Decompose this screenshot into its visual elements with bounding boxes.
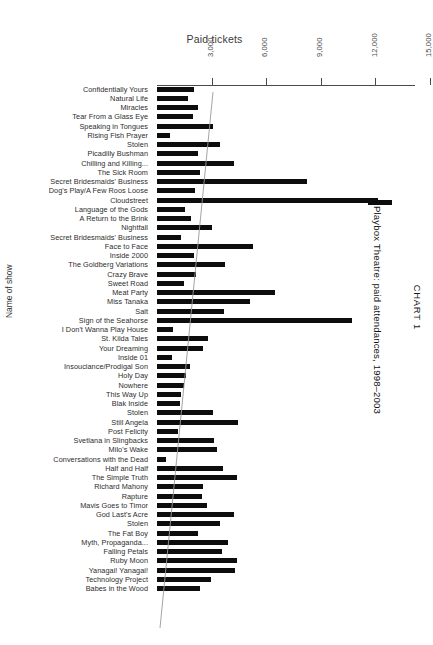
bar bbox=[157, 457, 166, 462]
bar bbox=[157, 105, 198, 110]
x-axis-tick bbox=[430, 78, 431, 85]
bar bbox=[157, 420, 238, 425]
bar bbox=[157, 521, 220, 526]
bar bbox=[157, 373, 186, 378]
title-rule bbox=[368, 200, 392, 205]
category-label: Speaking in Tongues bbox=[79, 122, 148, 131]
category-label: This Way Up bbox=[106, 390, 148, 399]
category-label: The Simple Truth bbox=[92, 473, 148, 482]
category-label: Secret Bridesmaids' Business bbox=[50, 233, 148, 242]
bar bbox=[157, 355, 172, 360]
category-label: The Goldberg Variations bbox=[68, 260, 148, 269]
category-label: Dog's Play/A Few Roos Loose bbox=[49, 186, 148, 195]
category-labels: Confidentially YoursNatural LifeMiracles… bbox=[0, 85, 153, 630]
bar bbox=[157, 170, 200, 175]
x-axis-tick-label: 9,000 bbox=[315, 37, 324, 57]
bar bbox=[157, 327, 173, 332]
category-label: Svetlana in Slingbacks bbox=[73, 436, 148, 445]
category-label: Richard Mahony bbox=[94, 482, 148, 491]
category-label: Your Dreaming bbox=[99, 344, 148, 353]
category-label: Holy Day bbox=[118, 371, 148, 380]
bar bbox=[157, 494, 202, 499]
bar-series bbox=[157, 85, 429, 630]
category-label: Inside 2000 bbox=[110, 251, 148, 260]
bar bbox=[157, 281, 184, 286]
bar bbox=[157, 568, 235, 573]
category-label: Nowhere bbox=[118, 381, 148, 390]
bar bbox=[157, 475, 237, 480]
category-label: Natural Life bbox=[110, 94, 148, 103]
category-label: Picadilly Bushman bbox=[88, 149, 148, 158]
category-label: Still Angela bbox=[111, 418, 148, 427]
bar bbox=[157, 383, 184, 388]
category-label: Yanagai! Yanagai! bbox=[89, 566, 148, 575]
x-axis-tick-label: 15,000 bbox=[424, 33, 433, 57]
category-label: Post Felicity bbox=[108, 427, 148, 436]
bar bbox=[157, 531, 198, 536]
bar bbox=[157, 179, 307, 184]
category-label: Language of the Gods bbox=[75, 205, 148, 214]
category-label: Technology Project bbox=[85, 575, 148, 584]
bar bbox=[157, 401, 180, 406]
category-label: Myth, Propaganda... bbox=[81, 538, 148, 547]
category-label: Insouciance/Prodigal Son bbox=[64, 362, 148, 371]
category-label: Crazy Brave bbox=[107, 270, 148, 279]
bar bbox=[157, 244, 253, 249]
bar bbox=[157, 290, 275, 295]
category-label: Stolen bbox=[127, 140, 148, 149]
bar bbox=[157, 410, 213, 415]
category-label: Inside 01 bbox=[118, 353, 148, 362]
bar bbox=[157, 96, 188, 101]
bar bbox=[157, 447, 217, 452]
x-axis-tick-label: 3,000 bbox=[206, 37, 215, 57]
x-axis-tick bbox=[375, 78, 376, 85]
bar bbox=[157, 540, 228, 545]
bar bbox=[157, 503, 207, 508]
x-axis-tick bbox=[212, 78, 213, 85]
bar bbox=[157, 346, 203, 351]
bar bbox=[157, 151, 198, 156]
bar bbox=[157, 161, 234, 166]
category-label: Mavis Goes to Timor bbox=[80, 501, 148, 510]
bar bbox=[157, 299, 250, 304]
bar bbox=[157, 309, 224, 314]
category-label: The Fat Boy bbox=[108, 529, 148, 538]
category-label: Rising Fish Prayer bbox=[87, 131, 148, 140]
bar bbox=[157, 429, 178, 434]
category-label: Nightfall bbox=[121, 223, 148, 232]
bar bbox=[157, 216, 191, 221]
x-axis-tick bbox=[321, 78, 322, 85]
category-label: Falling Petals bbox=[103, 547, 148, 556]
x-axis-tick-label: 12,000 bbox=[370, 33, 379, 57]
category-label: St. Kilda Tales bbox=[101, 334, 148, 343]
category-label: God Last's Acre bbox=[96, 510, 148, 519]
bar bbox=[157, 188, 195, 193]
category-label: Conversations with the Dead bbox=[53, 455, 148, 464]
category-label: Sweet Road bbox=[108, 279, 148, 288]
category-label: Chilling and Killing... bbox=[81, 159, 148, 168]
bar bbox=[157, 207, 185, 212]
bar bbox=[157, 364, 190, 369]
category-label: The Sick Room bbox=[97, 168, 148, 177]
category-label: Secret Bridesmaids' Business bbox=[50, 177, 148, 186]
bar bbox=[157, 235, 181, 240]
bar bbox=[157, 512, 234, 517]
category-label: Salt bbox=[135, 307, 148, 316]
bar bbox=[157, 262, 225, 267]
category-label: Half and Half bbox=[105, 464, 148, 473]
category-label: Stolen bbox=[127, 408, 148, 417]
y-axis-title: Name of show bbox=[4, 264, 14, 318]
category-label: Babes in the Wood bbox=[86, 584, 148, 593]
bar bbox=[157, 114, 193, 119]
category-label: Face to Face bbox=[105, 242, 148, 251]
category-label: Tear From a Glass Eye bbox=[72, 112, 148, 121]
bar bbox=[157, 484, 203, 489]
bar bbox=[157, 466, 223, 471]
x-axis-tick bbox=[266, 78, 267, 85]
bar bbox=[157, 198, 378, 203]
category-label: Meat Party bbox=[112, 288, 148, 297]
bar bbox=[157, 392, 181, 397]
bar bbox=[157, 318, 352, 323]
bar bbox=[157, 133, 170, 138]
